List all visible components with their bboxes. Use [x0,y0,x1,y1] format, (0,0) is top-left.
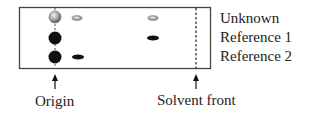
solvent-front-label: Solvent front [157,93,236,108]
origin-arrow [52,74,58,89]
lane-label-reference-1: Reference 1 [220,30,292,45]
reference-2-origin-spot [49,51,62,64]
unknown-spot-1 [72,16,82,21]
reference-1-spot [147,35,159,40]
lane-label-reference-2: Reference 2 [220,49,292,64]
unknown-spot-2 [148,16,158,21]
reference-1-origin-spot [49,32,62,45]
solvent-front-arrow [193,74,199,89]
lane-label-unknown: Unknown [220,11,279,26]
tlc-plate [20,8,211,69]
reference-2-spot [72,54,84,59]
origin-label: Origin [35,94,74,109]
unknown-origin-spot [49,11,61,23]
